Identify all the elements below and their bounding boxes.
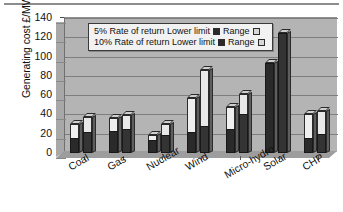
page-rule: [4, 3, 339, 5]
y-tick-label: 80: [18, 70, 52, 80]
bar-gas-series2: [122, 115, 131, 153]
axis-depth-tick: [56, 81, 66, 82]
bar-solar-series1: [265, 63, 274, 153]
bar-side-face: [131, 113, 135, 153]
legend-rate-label: 5% Rate of return Lower limit: [94, 26, 210, 37]
bar-lower-limit-segment: [226, 129, 235, 153]
y-tick-label: 20: [18, 128, 52, 138]
axis-depth-tick: [56, 42, 66, 43]
axis-depth-tick: [56, 139, 66, 140]
bar-side-face: [248, 92, 252, 153]
legend-row: 5% Rate of return Lower limit Range: [94, 26, 268, 37]
y-axis-ticks: 140120100806040200: [12, 0, 52, 212]
bar-chp-series1: [304, 114, 313, 153]
bar-lower-limit-segment: [239, 114, 248, 153]
legend-rate-label: 10% Rate of return Lower limit: [94, 37, 215, 48]
y-tick-label: 60: [18, 89, 52, 99]
bar-side-face: [287, 31, 291, 153]
bar-lower-limit-segment: [278, 33, 287, 153]
y-tick-label: 100: [18, 51, 52, 61]
axis-depth-tick: [56, 100, 66, 101]
bar-lower-limit-segment: [83, 132, 92, 153]
bar-lower-limit-segment: [70, 138, 79, 153]
y-tick-label: 40: [18, 108, 52, 118]
legend-range-swatch-icon: [258, 39, 265, 46]
y-tick-label: 140: [18, 12, 52, 22]
y-tick-label: 120: [18, 31, 52, 41]
bar-lower-limit-segment: [304, 138, 313, 153]
bar-micro-hydro-series1: [226, 107, 235, 153]
bar-lower-limit-segment: [109, 131, 118, 153]
legend-range-label: Range: [223, 26, 250, 37]
bar-wind-series2: [200, 70, 209, 153]
bar-coal-series1: [70, 124, 79, 153]
bar-nuclear-series1: [148, 135, 157, 153]
legend-range-swatch-icon: [253, 28, 260, 35]
bar-side-face: [92, 115, 96, 153]
legend-row: 10% Rate of return Lower limit Range: [94, 37, 268, 48]
bar-gas-series1: [109, 118, 118, 153]
bar-lower-limit-segment: [200, 126, 209, 153]
axis-depth-tick: [56, 23, 66, 24]
chart-figure: Generating cost £/MWh 140120100806040200…: [0, 0, 343, 212]
y-tick-label: 0: [18, 147, 52, 157]
bar-lower-limit-segment: [148, 140, 157, 153]
axis-depth-tick: [56, 158, 66, 159]
bar-chp-series2: [317, 111, 326, 153]
bar-lower-limit-segment: [265, 63, 274, 153]
axis-depth-tick: [56, 119, 66, 120]
bar-side-face: [326, 109, 330, 153]
gridline: [65, 57, 338, 58]
bar-lower-limit-segment: [122, 129, 131, 153]
legend-lower-swatch-icon: [213, 28, 220, 35]
axis-depth-tick: [56, 62, 66, 63]
chart-legend: 5% Rate of return Lower limit Range 10% …: [88, 23, 273, 51]
bar-side-face: [209, 68, 213, 153]
bar-coal-series2: [83, 117, 92, 153]
gridline: [65, 18, 338, 19]
legend-range-label: Range: [228, 37, 255, 48]
bar-wind-series1: [187, 98, 196, 153]
bar-lower-limit-segment: [187, 132, 196, 153]
bar-micro-hydro-series2: [239, 94, 248, 153]
bar-solar-series2: [278, 33, 287, 153]
legend-lower-swatch-icon: [218, 39, 225, 46]
